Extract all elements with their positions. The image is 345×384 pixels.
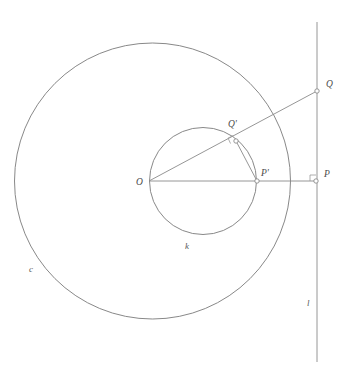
point-label-p-prime: P' — [260, 168, 270, 178]
geometry-diagram: O P' P Q' Q c k l — [0, 0, 345, 384]
diagram-canvas: O P' P Q' Q c k l — [0, 0, 345, 384]
point-marker-q — [315, 89, 319, 93]
curve-label-k: k — [185, 241, 190, 251]
segment-qprime-to-pprime — [236, 141, 257, 181]
point-markers — [234, 89, 319, 183]
point-marker-p — [314, 179, 318, 183]
point-label-o: O — [136, 177, 143, 187]
curve-label-l: l — [307, 298, 310, 308]
curve-label-c: c — [29, 264, 33, 274]
point-marker-q-prime — [234, 139, 238, 143]
point-label-q: Q — [326, 79, 333, 89]
point-marker-p-prime — [255, 179, 259, 183]
point-label-q-prime: Q' — [228, 119, 238, 129]
point-label-p: P — [323, 169, 330, 179]
